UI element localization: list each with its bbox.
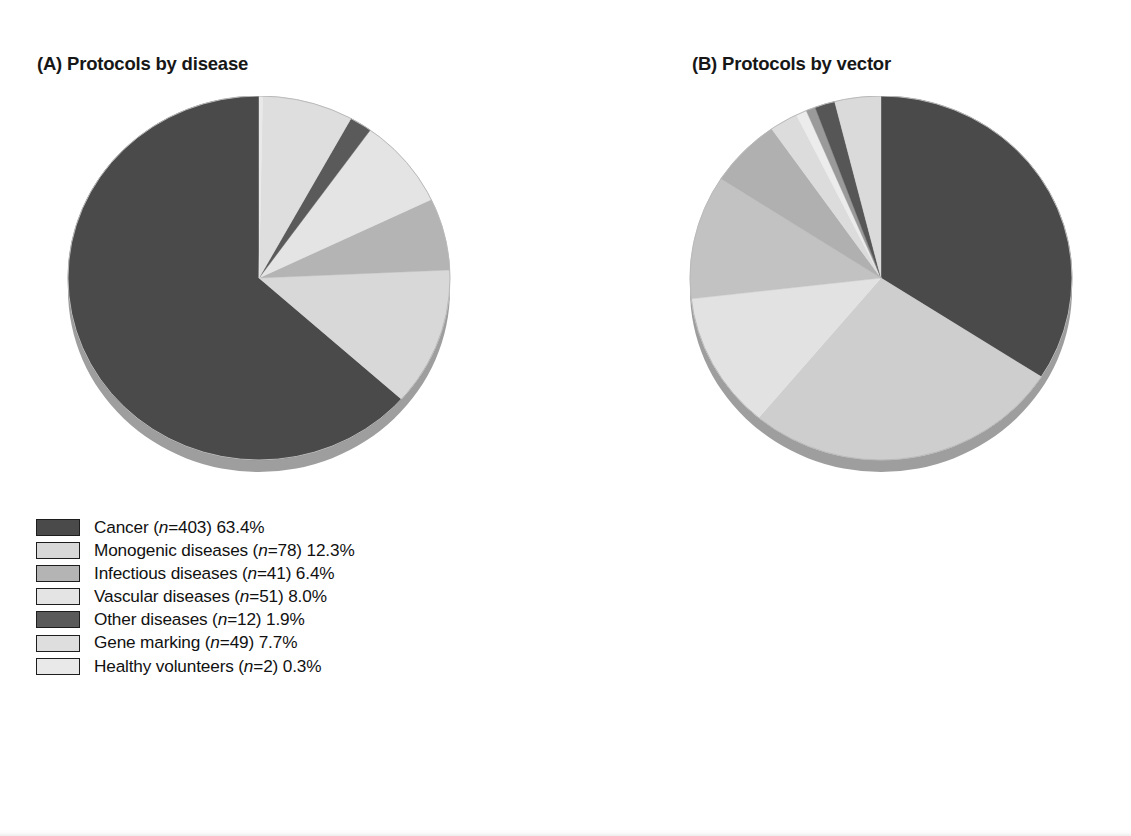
figure-root: (A) Protocols by disease Cancer (n=403) … — [0, 0, 1131, 836]
panel-protocols-by-vector: (B) Protocols by vector Retrovirus (n=21… — [566, 0, 1131, 836]
legend-label: Monogenic diseases (n=78) 12.3% — [94, 542, 355, 559]
pie-chart-by-disease — [66, 96, 452, 476]
legend-swatch — [36, 519, 80, 536]
pie-chart-by-vector — [688, 96, 1074, 476]
legend-item: Cancer (n=403) 63.4% — [36, 516, 355, 539]
legend-label: Healthy volunteers (n=2) 0.3% — [94, 658, 321, 675]
legend-swatch — [36, 542, 80, 559]
panel-a-title: (A) Protocols by disease — [37, 53, 248, 75]
legend-label: Gene marking (n=49) 7.7% — [94, 634, 297, 651]
legend-item: Vascular diseases (n=51) 8.0% — [36, 585, 355, 608]
pie-a-svg — [66, 96, 452, 476]
legend-label: Cancer (n=403) 63.4% — [94, 519, 264, 536]
legend-swatch — [36, 611, 80, 628]
legend-item: Other diseases (n=12) 1.9% — [36, 608, 355, 631]
pie-b-svg — [688, 96, 1074, 476]
legend-by-disease: Cancer (n=403) 63.4%Monogenic diseases (… — [36, 516, 355, 678]
legend-item: Infectious diseases (n=41) 6.4% — [36, 562, 355, 585]
legend-swatch — [36, 635, 80, 652]
legend-item: Gene marking (n=49) 7.7% — [36, 631, 355, 654]
legend-label: Other diseases (n=12) 1.9% — [94, 611, 305, 628]
scan-edge — [0, 829, 1131, 836]
legend-item: Healthy volunteers (n=2) 0.3% — [36, 655, 355, 678]
legend-item: Monogenic diseases (n=78) 12.3% — [36, 539, 355, 562]
legend-label: Infectious diseases (n=41) 6.4% — [94, 565, 334, 582]
legend-label: Vascular diseases (n=51) 8.0% — [94, 588, 327, 605]
legend-swatch — [36, 658, 80, 675]
panel-b-title: (B) Protocols by vector — [692, 53, 891, 75]
legend-swatch — [36, 588, 80, 605]
legend-swatch — [36, 565, 80, 582]
panel-protocols-by-disease: (A) Protocols by disease Cancer (n=403) … — [0, 0, 566, 836]
